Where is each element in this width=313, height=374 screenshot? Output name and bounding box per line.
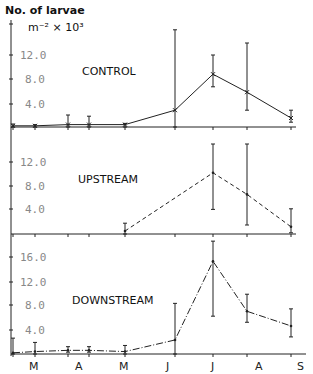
svg-text:8.0: 8.0 bbox=[25, 299, 45, 312]
svg-text:A: A bbox=[75, 360, 83, 373]
svg-text:M: M bbox=[119, 360, 129, 373]
panel-label-control: CONTROL bbox=[82, 65, 137, 78]
series-control bbox=[11, 30, 293, 130]
x-month-labels: M A M J J A S bbox=[29, 360, 304, 373]
svg-text:S: S bbox=[297, 360, 304, 373]
svg-text:M: M bbox=[29, 360, 39, 373]
series-layer bbox=[11, 30, 293, 357]
svg-text:J: J bbox=[165, 360, 169, 373]
svg-text:12.0: 12.0 bbox=[20, 156, 47, 169]
svg-text:8.0: 8.0 bbox=[25, 180, 45, 193]
svg-text:A: A bbox=[255, 360, 263, 373]
svg-text:16.0: 16.0 bbox=[20, 251, 47, 264]
svg-text:12.0: 12.0 bbox=[20, 276, 47, 289]
svg-text:4.0: 4.0 bbox=[25, 324, 45, 337]
downstream-yticks: 4.0 8.0 12.0 16.0 bbox=[9, 251, 47, 337]
control-yticks: 4.0 8.0 12.0 bbox=[9, 24, 47, 111]
panel-label-downstream: DOWNSTREAM bbox=[72, 294, 154, 307]
svg-text:J: J bbox=[210, 360, 214, 373]
svg-text:8.0: 8.0 bbox=[25, 73, 45, 86]
larvae-chart: No. of larvae m⁻² × 10³ 4.0 8.0 12.0 4.0… bbox=[0, 0, 313, 374]
series-upstream bbox=[13, 144, 293, 237]
y-axis-title-line2: m⁻² × 10³ bbox=[28, 21, 84, 34]
svg-text:4.0: 4.0 bbox=[25, 203, 45, 216]
y-axis-title-line1: No. of larvae bbox=[5, 4, 85, 17]
panel-label-upstream: UPSTREAM bbox=[78, 173, 138, 186]
svg-text:12.0: 12.0 bbox=[20, 49, 47, 62]
svg-text:4.0: 4.0 bbox=[25, 98, 45, 111]
upstream-yticks: 4.0 8.0 12.0 bbox=[9, 156, 47, 216]
